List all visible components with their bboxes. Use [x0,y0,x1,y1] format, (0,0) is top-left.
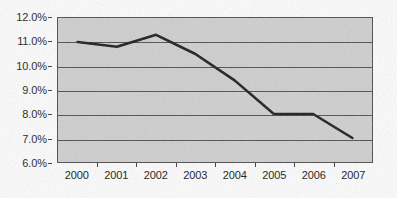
y-tick-mark [48,66,52,67]
series-polyline [78,35,353,138]
y-tick-mark [48,90,52,91]
plot-area [57,17,373,163]
x-tick-label: 2007 [341,169,365,181]
x-tick-mark [136,163,137,167]
x-tick-label: 2006 [302,169,326,181]
x-tick-label: 2004 [223,169,247,181]
y-tick-label: 11.0% [17,35,47,47]
x-tick-label: 2002 [144,169,168,181]
y-tick-mark [48,163,52,164]
y-tick-label: 7.0% [22,133,47,145]
x-tick-label: 2001 [104,169,128,181]
x-axis: 20002001200220032004200520062007 [57,169,373,189]
x-tick-mark [255,163,256,167]
x-tick-mark [334,163,335,167]
x-tick-label: 2003 [183,169,207,181]
chart-screenshot: 6.0%7.0%8.0%9.0%10.0%11.0%12.0% 20002001… [0,0,397,198]
y-axis: 6.0%7.0%8.0%9.0%10.0%11.0%12.0% [0,17,52,163]
y-tick-mark [48,114,52,115]
line-chart-figure: 6.0%7.0%8.0%9.0%10.0%11.0%12.0% 20002001… [0,0,397,198]
x-tick-label: 2000 [65,169,89,181]
y-tick-mark [48,139,52,140]
y-tick-label: 6.0% [22,157,47,169]
y-tick-label: 10.0% [16,60,47,72]
y-tick-label: 8.0% [22,108,47,120]
x-tick-mark [176,163,177,167]
y-tick-label: 12.0% [16,11,47,23]
x-tick-label: 2005 [262,169,286,181]
x-tick-mark [294,163,295,167]
x-tick-mark [215,163,216,167]
y-tick-mark [48,41,52,42]
x-tick-mark [97,163,98,167]
x-axis-ticks [57,163,373,168]
y-tick-label: 9.0% [22,84,47,96]
data-series-line [58,18,372,162]
y-tick-mark [48,17,52,18]
